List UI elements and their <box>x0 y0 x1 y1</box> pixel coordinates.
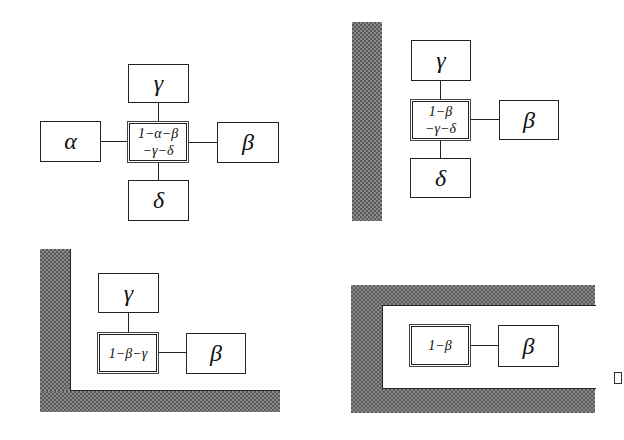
neighbor-down-box: δ <box>128 180 189 221</box>
neighbor-right-box: β <box>217 122 279 163</box>
label: δ <box>435 165 446 192</box>
connector-up <box>440 81 441 99</box>
center-cell: 1−β −γ−δ <box>410 99 471 141</box>
neighbor-up-box: γ <box>98 273 159 313</box>
label: α <box>64 128 77 155</box>
wall-edge-vertical <box>70 249 71 391</box>
connector-right <box>188 142 217 143</box>
wall-left <box>40 249 70 412</box>
wall-edge-horizontal <box>70 390 280 391</box>
label: γ <box>124 280 133 307</box>
center-label-line1: 1−β−γ <box>109 345 147 362</box>
connector-down <box>440 140 441 158</box>
connector-up <box>158 102 159 121</box>
center-cell: 1−β−γ <box>97 332 159 374</box>
center-cell: 1−β <box>409 324 471 367</box>
neighbor-down-box: δ <box>410 158 471 198</box>
center-label-line1: 1−α−β <box>138 125 178 142</box>
connector-right <box>471 345 498 346</box>
label: β <box>242 129 254 156</box>
connector-right <box>159 352 186 353</box>
wall-left <box>352 22 382 221</box>
connector-right <box>470 119 499 120</box>
label: β <box>210 340 222 367</box>
center-label-line1: 1−β <box>428 337 451 354</box>
center-label-line2: −γ−δ <box>143 142 174 159</box>
label: δ <box>153 187 164 214</box>
center-label-line2: −γ−δ <box>425 120 456 137</box>
neighbor-right-box: β <box>499 100 559 140</box>
neighbor-up-box: γ <box>128 64 189 103</box>
wall-bottom <box>40 391 280 412</box>
edge-artifact <box>614 372 622 384</box>
connector-up <box>128 313 129 332</box>
neighbor-right-box: β <box>186 333 246 374</box>
neighbor-left-box: α <box>40 121 101 162</box>
label: β <box>523 333 535 360</box>
connector-down <box>158 162 159 180</box>
center-cell: 1−α−β −γ−δ <box>127 121 189 163</box>
center-label-line1: 1−β <box>429 103 452 120</box>
label: β <box>523 107 535 134</box>
connector-left <box>100 141 127 142</box>
neighbor-right-box: β <box>498 325 559 367</box>
label: γ <box>436 47 445 74</box>
neighbor-up-box: γ <box>411 40 471 81</box>
label: γ <box>154 70 163 97</box>
